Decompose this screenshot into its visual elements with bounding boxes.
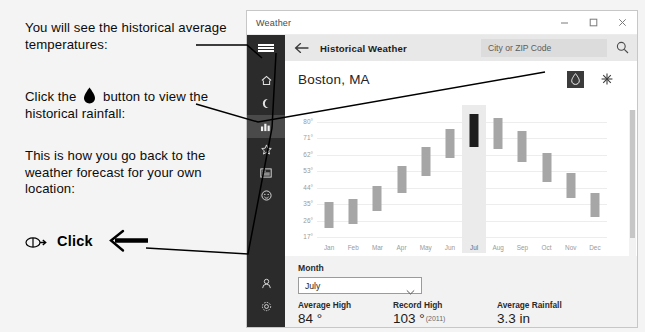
maximize-icon[interactable] [579, 11, 608, 34]
search-placeholder: City or ZIP Code [488, 43, 551, 53]
close-icon[interactable] [608, 11, 637, 34]
chart-month-column[interactable]: Oct [535, 105, 559, 237]
chart-month-column[interactable]: Sep [510, 105, 534, 237]
chart-month-column[interactable]: Mar [365, 105, 389, 237]
chart-icon [260, 118, 272, 136]
chart-month-column[interactable]: Apr [390, 105, 414, 237]
stat-value: 84 ° [298, 311, 393, 326]
weather-app-window: Weather His [247, 11, 637, 327]
chart-toggle-group [567, 71, 615, 88]
x-axis-tick-label: Sep [510, 244, 534, 251]
click-label: Click [57, 233, 93, 249]
temperature-range-bar[interactable] [445, 129, 454, 158]
chart-plot-area: JanFebMarAprMayJunJulAugSepOctNovDec [317, 105, 607, 237]
x-axis-tick-label: Jun [438, 244, 462, 251]
temperature-range-bar[interactable] [421, 147, 430, 176]
page-title: Historical Weather [320, 43, 407, 54]
nav-rail [247, 61, 285, 327]
annotation-note-3: This is how you go back to the weather f… [25, 148, 235, 198]
home-icon [261, 72, 272, 90]
title-bar: Weather [247, 11, 637, 35]
annotation-note-2: Click the button to view the historical … [25, 87, 240, 122]
sidebar-item-forecast[interactable] [247, 69, 285, 92]
rainfall-toggle-button[interactable] [567, 71, 584, 88]
gear-icon [261, 298, 272, 316]
stat-label: Record High [393, 300, 497, 310]
window-controls [550, 11, 637, 34]
temperature-range-bar[interactable] [349, 199, 358, 225]
search-input[interactable]: City or ZIP Code [481, 39, 607, 57]
y-axis-tick-label: 53° [293, 167, 313, 174]
sidebar-item-favorites[interactable] [247, 138, 285, 161]
sidebar-item-historical-weather[interactable] [247, 115, 285, 138]
chart-month-column[interactable]: Dec [583, 105, 607, 237]
content-scrollbar[interactable] [629, 110, 636, 327]
minimize-icon[interactable] [550, 11, 579, 34]
stat-label: Average High [298, 300, 393, 310]
sidebar-item-news[interactable] [247, 161, 285, 184]
temperature-range-bar[interactable] [542, 153, 551, 182]
news-icon [260, 164, 272, 182]
person-icon [261, 275, 272, 293]
y-axis-tick-label: 35° [293, 200, 313, 207]
x-axis-tick-label: Aug [486, 244, 510, 251]
x-axis-tick-label: Mar [365, 244, 389, 251]
y-axis-tick-label: 26° [293, 217, 313, 224]
app-nav-bar: Historical Weather City or ZIP Code [247, 35, 637, 61]
temperature-range-bar[interactable] [566, 173, 575, 199]
smiley-icon [261, 187, 272, 205]
water-drop-icon [83, 87, 96, 104]
mouse-click-icon [25, 235, 47, 248]
x-axis-tick-label: Jan [317, 244, 341, 251]
x-axis-tick-label: Jul [462, 244, 486, 251]
stat-label: Average Rainfall [497, 300, 617, 310]
sidebar-item-feedback[interactable] [247, 184, 285, 207]
temperature-range-bar[interactable] [590, 193, 599, 217]
sidebar-item-maps[interactable] [247, 92, 285, 115]
chart-month-column[interactable]: Aug [486, 105, 510, 237]
search-icon[interactable] [616, 40, 629, 58]
hamburger-menu-icon[interactable] [247, 35, 285, 61]
chart-month-column[interactable]: Jun [438, 105, 462, 237]
snowfall-toggle-button[interactable] [598, 71, 615, 88]
temperature-range-bar[interactable] [373, 186, 382, 212]
water-drop-icon [571, 71, 580, 89]
temperature-range-bar[interactable] [325, 202, 334, 228]
window-title: Weather [256, 18, 291, 28]
snowflake-icon [601, 71, 613, 89]
temperature-range-bar[interactable] [494, 118, 503, 149]
chart-month-column[interactable]: Nov [559, 105, 583, 237]
stat-value: 103 °(2011) [393, 311, 497, 326]
month-label: Month [298, 263, 637, 273]
window-body: Boston, MA [247, 61, 637, 327]
stats-row: Average High84 °Record High103 °(2011)Av… [298, 300, 627, 326]
temperature-range-bar[interactable] [518, 131, 527, 162]
x-axis-tick-label: May [414, 244, 438, 251]
stat-item: Record High103 °(2011) [393, 300, 497, 326]
annotation-note-2-before: Click the [25, 89, 76, 104]
chevron-down-icon [406, 282, 415, 300]
arrow-left-icon [107, 228, 149, 254]
main-content: Boston, MA [285, 61, 637, 327]
temperature-range-bar[interactable] [470, 114, 479, 147]
sidebar-item-settings[interactable] [247, 295, 285, 318]
back-arrow-icon[interactable] [288, 35, 314, 61]
month-select[interactable]: July [298, 277, 422, 294]
sidebar-item-account[interactable] [247, 272, 285, 295]
chart-month-column[interactable]: Feb [341, 105, 365, 237]
chart-month-column[interactable]: Jul [462, 105, 486, 237]
nav-rail-bottom [247, 272, 285, 318]
star-icon [261, 141, 272, 159]
scrollbar-thumb[interactable] [630, 110, 635, 238]
chart-month-column[interactable]: Jan [317, 105, 341, 237]
historical-temperature-chart: 80°71°62°53°44°35°26°17° JanFebMarAprMay… [293, 105, 611, 253]
y-axis-tick-label: 71° [293, 134, 313, 141]
y-axis-tick-label: 17° [293, 233, 313, 240]
temperature-range-bar[interactable] [397, 166, 406, 194]
month-select-value: July [305, 281, 320, 291]
screenshot-root: You will see the historical average temp… [0, 0, 645, 332]
x-axis-tick-label: Feb [341, 244, 365, 251]
y-axis-tick-label: 62° [293, 151, 313, 158]
moon-icon [261, 95, 272, 113]
chart-month-column[interactable]: May [414, 105, 438, 237]
